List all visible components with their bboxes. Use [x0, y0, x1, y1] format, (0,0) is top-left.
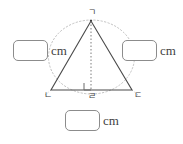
vertex-label-apex: ㄱ	[88, 8, 96, 17]
vertex-label-bottom-right: ㄷ	[134, 91, 142, 100]
answer-input-base[interactable]	[65, 110, 100, 131]
unit-label-left-side: cm	[51, 44, 67, 57]
geometry-diagram: cm cm cm ㄱ ㄴ ㄷ ㄹ	[0, 0, 183, 144]
answer-input-right-side[interactable]	[122, 40, 157, 61]
unit-label-base: cm	[103, 114, 119, 127]
unit-label-right-side: cm	[160, 44, 176, 57]
answer-input-left-side[interactable]	[13, 40, 48, 61]
vertex-label-altitude-foot: ㄹ	[88, 92, 96, 101]
right-angle-marker-icon	[84, 83, 91, 90]
vertex-label-bottom-left: ㄴ	[44, 91, 52, 100]
